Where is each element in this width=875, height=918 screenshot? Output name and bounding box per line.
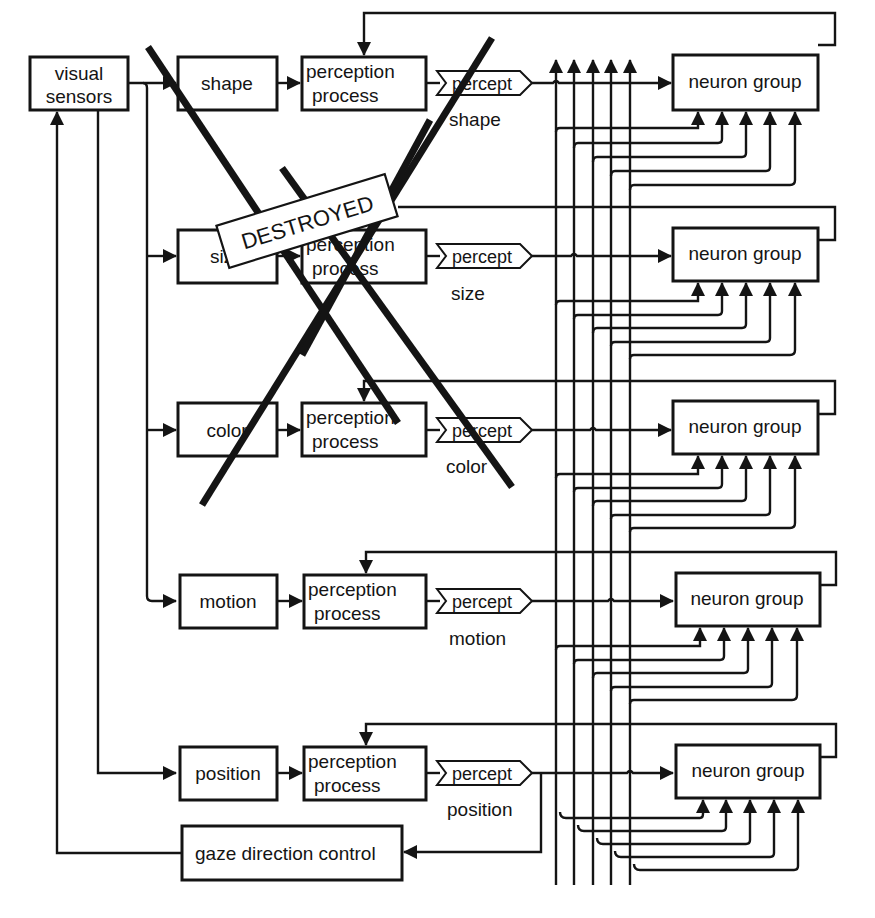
svg-text:gaze direction control: gaze direction control [195, 843, 376, 864]
neuron-groups: neuron group neuron group neuron group [556, 55, 820, 870]
svg-text:color: color [446, 456, 488, 477]
svg-text:percept: percept [452, 764, 512, 784]
visual-perception-diagram: visual sensors shape perception process … [0, 0, 875, 918]
svg-text:neuron group: neuron group [688, 416, 801, 437]
svg-text:neuron group: neuron group [688, 71, 801, 92]
feature-label: shape [201, 73, 253, 94]
svg-text:process: process [314, 603, 381, 624]
svg-text:percept: percept [452, 592, 512, 612]
svg-text:position: position [447, 799, 513, 820]
neuron-group-color: neuron group [556, 401, 818, 532]
svg-text:sensors: sensors [46, 86, 113, 107]
neuron-group-position: neuron group [560, 745, 820, 870]
svg-text:perception: perception [306, 61, 395, 82]
percept-caption: shape [449, 109, 501, 130]
svg-text:position: position [195, 763, 261, 784]
svg-text:process: process [312, 431, 379, 452]
svg-text:percept: percept [452, 421, 512, 441]
svg-text:neuron group: neuron group [688, 243, 801, 264]
svg-text:process: process [314, 775, 381, 796]
svg-text:neuron group: neuron group [690, 588, 803, 609]
svg-text:motion: motion [199, 591, 256, 612]
svg-text:perception: perception [306, 407, 395, 428]
svg-text:percept: percept [452, 247, 512, 267]
neuron-group-size: neuron group [556, 228, 818, 359]
svg-text:perception: perception [308, 579, 397, 600]
visual-sensors-box: visual sensors [30, 57, 128, 110]
gaze-direction-control-box: gaze direction control [182, 826, 402, 880]
svg-text:size: size [451, 283, 485, 304]
svg-text:neuron group: neuron group [691, 760, 804, 781]
sensor-wiring [57, 83, 182, 853]
percept-bus [556, 60, 630, 885]
neuron-group-motion: neuron group [556, 573, 820, 704]
svg-text:perception: perception [308, 751, 397, 772]
svg-text:process: process [312, 85, 379, 106]
svg-text:visual: visual [55, 63, 104, 84]
neuron-group-shape: neuron group [556, 55, 818, 190]
svg-text:motion: motion [449, 628, 506, 649]
